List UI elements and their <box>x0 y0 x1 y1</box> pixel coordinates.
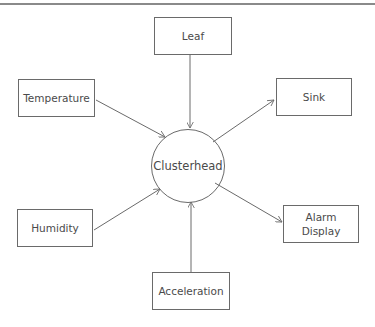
node-label: Leaf <box>182 29 204 43</box>
arrow-clusterhead-to-alarm-display <box>215 183 282 222</box>
node-label: Sink <box>303 90 325 104</box>
clusterhead-node: Clusterhead <box>151 129 225 203</box>
arrow-temperature-to-clusterhead <box>96 100 165 137</box>
node-temperature: Temperature <box>18 79 95 117</box>
node-humidity: Humidity <box>17 209 93 247</box>
node-alarm-display: Alarm Display <box>283 205 359 243</box>
arrow-humidity-to-clusterhead <box>94 189 160 230</box>
node-acceleration: Acceleration <box>152 272 230 310</box>
node-label: Temperature <box>23 91 90 105</box>
node-sink: Sink <box>276 78 352 116</box>
node-label: Humidity <box>31 221 79 235</box>
node-leaf: Leaf <box>154 17 232 55</box>
arrow-clusterhead-to-sink <box>213 100 274 142</box>
node-label: Acceleration <box>158 284 223 298</box>
clusterhead-label: Clusterhead <box>153 159 222 173</box>
node-label: Alarm Display <box>302 210 341 238</box>
